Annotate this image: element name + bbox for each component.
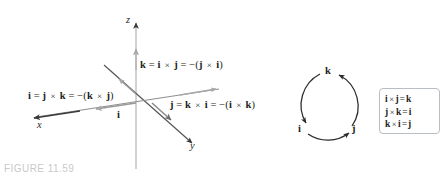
axis-label-z: z [126, 15, 130, 26]
equation-i-neg: −( [77, 90, 87, 101]
identity-row-0-eq: = [399, 94, 406, 104]
identity-row-2-eq: = [401, 119, 408, 129]
y-axis-back-arrow [119, 79, 136, 94]
cross-icon: × [205, 60, 213, 70]
equation-k-neg: −( [189, 59, 199, 70]
equation-i-b1: k [87, 90, 93, 101]
cycle-diagram-arcs [301, 74, 358, 140]
equation-i-lhs: i [28, 90, 31, 101]
j-unit-vector-arrow [152, 103, 171, 120]
equation-k-b1: j [199, 59, 203, 70]
equation-j-b1: i [229, 99, 232, 110]
cross-icon: × [235, 100, 243, 110]
identity-row: i×j=k [385, 93, 439, 106]
cross-icon: × [194, 100, 202, 110]
equation-i-eq1: = [34, 90, 40, 101]
axis-label-x: x [37, 120, 42, 131]
i-unit-vector-arrow [96, 103, 136, 109]
unit-vector-label-i: i [117, 110, 120, 121]
equation-j-eq2: = [210, 99, 216, 110]
cycle-node-k: k [325, 66, 331, 77]
equation-i-eq2: = [68, 90, 74, 101]
arc-j-to-k [339, 75, 358, 126]
identity-row-1-result: i [409, 107, 412, 117]
cycle-node-j: j [352, 124, 356, 135]
equation-i-a2: k [60, 90, 66, 101]
equation-k-lhs: k [140, 59, 146, 70]
identity-row: k×i=j [385, 118, 439, 131]
cross-icon: × [96, 91, 104, 101]
axis-label-y: y [190, 141, 195, 152]
identity-row-1-eq: = [401, 107, 408, 117]
equation-j-lhs: j [170, 99, 174, 110]
arc-i-to-j [308, 133, 349, 140]
equation-k: k = i × j = −(j × i) [140, 60, 223, 71]
equation-i-a1: j [43, 90, 47, 101]
x-axis-far-arrow [180, 89, 216, 95]
cross-icon: × [163, 60, 171, 70]
identity-box: i×j=k j×k=i k×i=j [379, 88, 440, 134]
figure-caption: FIGURE 11.59 [4, 163, 74, 174]
cycle-node-i: i [298, 124, 301, 135]
equation-k-eq2: = [180, 59, 186, 70]
equation-i: i = j × k = −(k × j) [28, 91, 114, 102]
identity-row-2-result: j [408, 119, 411, 129]
equation-k-a1: i [157, 59, 160, 70]
cross-icon: × [49, 91, 57, 101]
equation-j-close: ) [252, 99, 256, 110]
equation-j-eq1: = [176, 99, 182, 110]
identity-row-0-result: k [406, 94, 411, 104]
identity-row: j×k=i [385, 106, 439, 119]
equation-k-a2: j [174, 59, 178, 70]
arc-k-to-i [301, 74, 320, 123]
cross-icon: × [388, 107, 396, 117]
cross-icon: × [390, 119, 398, 129]
figure-11-59: z x y i k = i × j = −(j × i) i = j × k =… [0, 0, 448, 186]
equation-j-neg: −( [219, 99, 229, 110]
equation-j-a1: k [185, 99, 191, 110]
equation-j: j = k × i = −(i × k) [170, 100, 255, 111]
equation-k-eq1: = [149, 59, 155, 70]
equation-i-close: ) [110, 90, 114, 101]
equation-k-close: ) [219, 59, 223, 70]
equation-j-a2: i [205, 99, 208, 110]
